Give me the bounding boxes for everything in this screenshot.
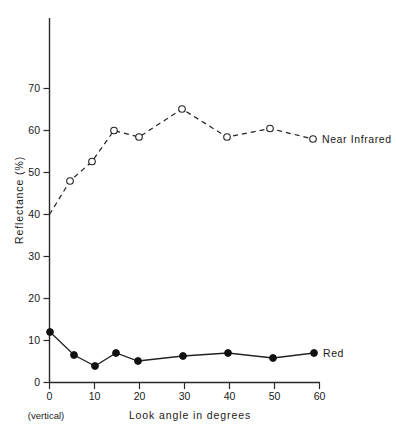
- y-tick-label-60: 60: [28, 124, 40, 136]
- red-point: [180, 353, 187, 360]
- y-axis-ticks: [44, 89, 50, 383]
- red-point: [311, 350, 318, 357]
- near-infrared-point: [179, 106, 186, 113]
- x-tick-label-30: 30: [179, 390, 191, 402]
- red-point: [71, 352, 78, 359]
- x-tick-label-10: 10: [89, 390, 101, 402]
- near-infrared-point: [89, 158, 96, 165]
- x-tick-label-20: 20: [134, 390, 146, 402]
- y-tick-label-50: 50: [28, 166, 40, 178]
- red-series-label: Red: [323, 347, 344, 359]
- reflectance-vs-look-angle-chart: 0 10 20 30 40 50 60 70 0 10 20 30 40 50: [0, 0, 396, 431]
- y-axis-tick-labels: 0 10 20 30 40 50 60 70: [28, 82, 40, 388]
- y-tick-label-30: 30: [28, 250, 40, 262]
- red-point: [270, 355, 277, 362]
- near-infrared-point: [310, 136, 317, 143]
- red-point: [135, 358, 142, 365]
- red-markers: [47, 329, 318, 370]
- red-point: [113, 350, 120, 357]
- near-infrared-point: [267, 125, 274, 132]
- near-infrared-point: [136, 134, 143, 141]
- y-tick-label-10: 10: [28, 334, 40, 346]
- x-axis-vertical-note: (vertical): [28, 410, 64, 421]
- near-infrared-point: [111, 127, 118, 134]
- near-infrared-series-label: Near Infrared: [322, 133, 392, 145]
- y-axis-title: Reflectance (%): [13, 156, 25, 244]
- y-tick-label-70: 70: [28, 82, 40, 94]
- chart-figure: 0 10 20 30 40 50 60 70 0 10 20 30 40 50: [0, 0, 396, 431]
- x-tick-label-0: 0: [47, 390, 53, 402]
- near-infrared-markers: [67, 106, 317, 185]
- x-axis-tick-labels: 0 10 20 30 40 50 60: [47, 390, 326, 402]
- near-infrared-point: [67, 178, 74, 185]
- x-tick-label-50: 50: [269, 390, 281, 402]
- red-point: [92, 363, 99, 370]
- x-tick-label-60: 60: [314, 390, 326, 402]
- near-infrared-point: [224, 134, 231, 141]
- x-axis-ticks: [50, 383, 320, 390]
- y-tick-label-0: 0: [34, 376, 40, 388]
- y-tick-label-40: 40: [28, 208, 40, 220]
- x-tick-label-40: 40: [224, 390, 236, 402]
- red-point: [225, 350, 232, 357]
- x-axis-title: Look angle in degrees: [129, 409, 251, 421]
- red-point: [47, 329, 54, 336]
- y-tick-label-20: 20: [28, 292, 40, 304]
